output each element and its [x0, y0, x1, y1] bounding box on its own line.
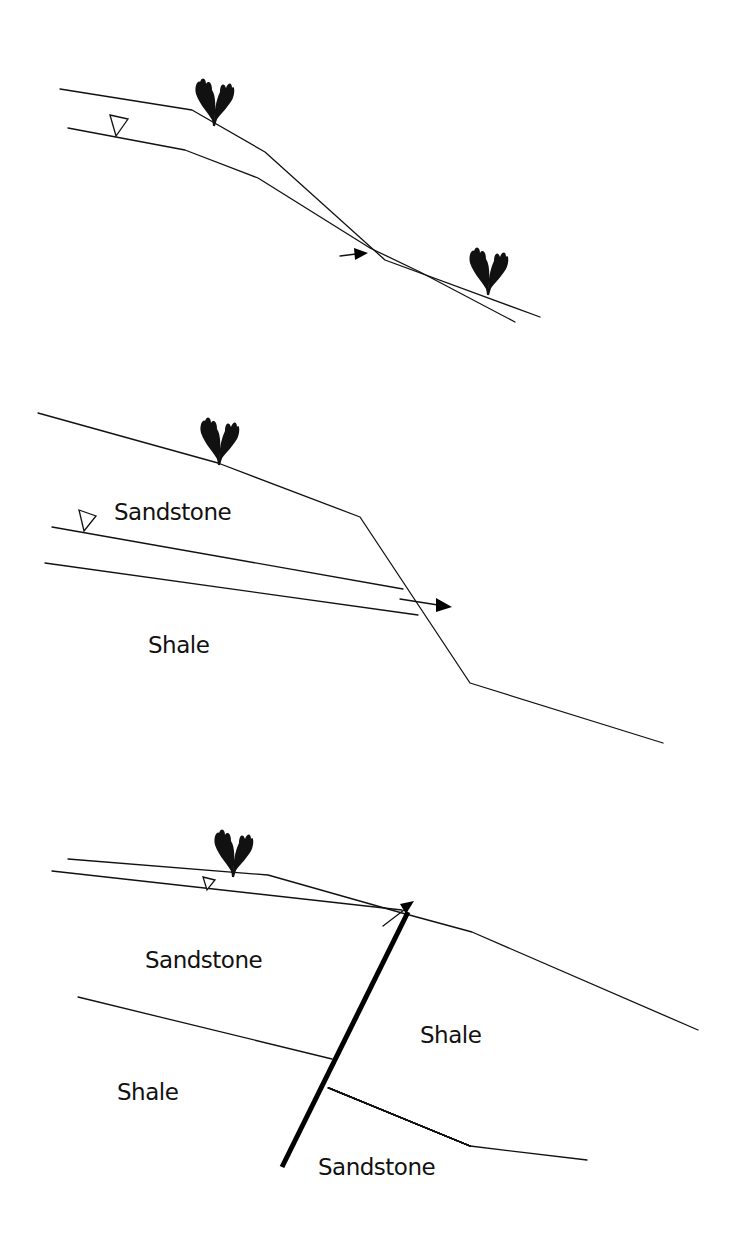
label-sandstone-lower: Sandstone [318, 1154, 435, 1180]
geology-seepage-diagram: Sandstone Shale [0, 0, 731, 1244]
sandstone-shale-contact-left [78, 997, 332, 1059]
panel-1 [60, 78, 540, 322]
label-shale-right: Shale [420, 1022, 481, 1048]
shrub-icon [200, 417, 239, 465]
ground-surface [60, 89, 540, 317]
seepage-arrow-icon [340, 248, 368, 260]
shrub-icon [214, 829, 253, 877]
label-shale-lower: Shale [117, 1079, 178, 1105]
sandstone-shale-contact [45, 563, 418, 615]
water-table-line [52, 871, 402, 910]
contact-lower-right-main [329, 1088, 470, 1146]
panel-3: Sandstone Shale Shale Sandstone [52, 829, 698, 1180]
ground-surface [38, 413, 663, 743]
label-shale: Shale [148, 632, 209, 658]
seepage-arrow-icon [400, 598, 452, 612]
ground-surface [68, 859, 698, 1030]
water-table-symbol-icon [110, 115, 128, 136]
label-sandstone: Sandstone [114, 499, 231, 525]
water-table-line [52, 527, 403, 589]
fault-line [282, 912, 408, 1167]
label-sandstone-upper: Sandstone [145, 947, 262, 973]
contact-lower-right-to-edge-final [470, 1146, 587, 1160]
panel-2: Sandstone Shale [38, 413, 663, 743]
shrub-icon [469, 247, 508, 295]
shrub-icon [195, 78, 234, 126]
water-table-line [68, 128, 515, 322]
water-table-symbol-icon [79, 510, 96, 531]
